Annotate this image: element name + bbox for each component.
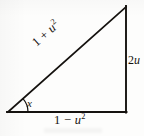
hypotenuse-line [8, 7, 126, 112]
horizontal-leg-label: 1 − u2 [54, 114, 86, 127]
angle-label: x [27, 98, 32, 109]
vertical-leg-label: 2u [128, 54, 140, 66]
figure-canvas: 1 + u2 2u 1 − u2 x [0, 0, 144, 136]
